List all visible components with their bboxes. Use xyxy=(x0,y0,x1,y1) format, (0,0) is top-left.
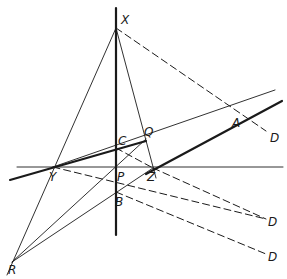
line-X-Z xyxy=(116,28,156,178)
lines-group xyxy=(7,8,283,275)
point-label-d2: D xyxy=(268,215,277,229)
point-label-c: C xyxy=(118,134,127,148)
line-R-Q xyxy=(12,139,146,262)
dashed-Y-B-D xyxy=(53,167,266,219)
dashed-C-Z xyxy=(116,148,153,168)
point-label-q: Q xyxy=(144,125,153,139)
point-label-b: B xyxy=(115,195,123,209)
dashed-B-D xyxy=(116,192,266,254)
line-Y-Q-A xyxy=(53,90,275,167)
dashed-X-A-D xyxy=(116,28,266,131)
line-R-X xyxy=(7,28,116,275)
geometry-diagram: XCQADYPZBDDR xyxy=(0,0,287,279)
point-label-d3: D xyxy=(268,250,277,264)
point-label-x: X xyxy=(120,13,130,27)
point-label-p: P xyxy=(117,170,125,184)
point-label-y: Y xyxy=(49,170,58,184)
diagram-canvas: XCQADYPZBDDR xyxy=(0,0,287,279)
thick-line-Z-A xyxy=(146,101,282,174)
point-label-z: Z xyxy=(146,170,156,184)
point-label-a: A xyxy=(231,116,240,130)
point-label-d1: D xyxy=(270,131,279,145)
dashed-Z-D xyxy=(153,168,266,219)
point-label-r: R xyxy=(8,263,16,277)
